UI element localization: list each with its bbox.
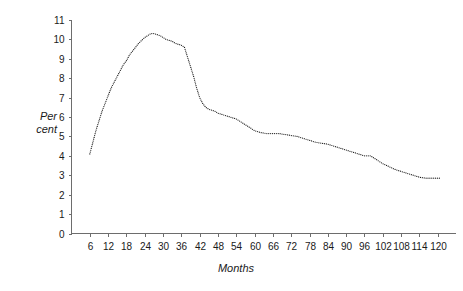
series-dot: [391, 167, 392, 168]
series-dot: [318, 142, 319, 143]
series-dot: [107, 95, 108, 96]
series-dot: [326, 143, 327, 144]
x-tick-label: 102: [375, 241, 392, 252]
series-dot: [97, 126, 98, 127]
series-dot: [170, 40, 171, 41]
series-dot: [378, 160, 379, 161]
series-dot: [101, 113, 102, 114]
series-dot: [241, 122, 242, 123]
x-tick-label: 30: [158, 241, 170, 252]
series-dot: [190, 65, 191, 66]
series-dot: [274, 133, 275, 134]
series-dot: [362, 155, 363, 156]
series-dot: [157, 34, 158, 35]
series-dot: [223, 114, 224, 115]
series-dot: [109, 92, 110, 93]
series-dot: [280, 133, 281, 134]
series-dot: [349, 151, 350, 152]
series-dot: [122, 65, 123, 66]
series-dot: [93, 140, 94, 141]
series-dot: [227, 116, 228, 117]
series-dot: [182, 46, 183, 47]
series-dot: [237, 119, 238, 120]
series-dot: [374, 158, 375, 159]
series-dot: [93, 139, 94, 140]
series-dot: [120, 70, 121, 71]
series-dot: [105, 101, 106, 102]
series-dot: [186, 52, 187, 53]
series-dot: [393, 168, 394, 169]
series-dot: [96, 128, 97, 129]
series-dot: [353, 152, 354, 153]
x-tick-label: 12: [103, 241, 115, 252]
series-dot: [94, 137, 95, 138]
series-dot: [304, 138, 305, 139]
series-dot: [262, 132, 263, 133]
series-dot: [181, 45, 182, 46]
series-dot: [220, 113, 221, 114]
series-dot: [188, 60, 189, 61]
series-dot: [207, 108, 208, 109]
series-dot: [253, 130, 254, 131]
x-tick-label: 6: [88, 241, 94, 252]
series-dot: [132, 51, 133, 52]
series-dot: [316, 142, 317, 143]
series-dot: [357, 153, 358, 154]
series-dot: [179, 44, 180, 45]
y-tick-label: 10: [53, 34, 65, 45]
series-dot: [140, 40, 141, 41]
series-dot: [313, 141, 314, 142]
series-dot: [322, 143, 323, 144]
series-dot: [195, 83, 196, 84]
series-dot: [281, 133, 282, 134]
series-dot: [245, 125, 246, 126]
series-dot: [117, 75, 118, 76]
series-dot: [169, 40, 170, 41]
series-dot: [342, 148, 343, 149]
series-dot: [130, 54, 131, 55]
series-dot: [382, 163, 383, 164]
x-tick-label: 18: [121, 241, 133, 252]
series-dot: [324, 143, 325, 144]
series-dot: [214, 111, 215, 112]
series-dot: [211, 110, 212, 111]
series-dot: [95, 131, 96, 132]
series-dot: [109, 90, 110, 91]
y-tick-label: 2: [59, 190, 65, 201]
x-axis-tick-labels: 6121824303642485460667278849096102108114…: [88, 241, 448, 252]
series-dot: [91, 148, 92, 149]
series-dot: [218, 113, 219, 114]
series-dot: [366, 155, 367, 156]
series-dot: [151, 33, 152, 34]
series-dot: [187, 58, 188, 59]
series-dot: [123, 63, 124, 64]
series-dot: [191, 69, 192, 70]
y-tick-label: 4: [59, 151, 65, 162]
series-dot: [229, 116, 230, 117]
series-dot: [105, 102, 106, 103]
series-dot: [414, 175, 415, 176]
series-dot: [206, 107, 207, 108]
series-dot: [420, 177, 421, 178]
series-dot: [252, 129, 253, 130]
series-dot: [261, 132, 262, 133]
series-dot: [437, 178, 438, 179]
series-dot: [402, 171, 403, 172]
series-dot: [411, 174, 412, 175]
y-axis-title-line2: cent: [36, 123, 58, 135]
series-dot: [364, 155, 365, 156]
series-dot: [320, 142, 321, 143]
y-axis-title-line1: Per: [40, 110, 58, 122]
series-dot: [344, 149, 345, 150]
series-dot: [131, 52, 132, 53]
series-dot: [250, 128, 251, 129]
series-dot: [172, 41, 173, 42]
series-dot: [199, 96, 200, 97]
series-dot: [209, 109, 210, 110]
series-dot: [302, 137, 303, 138]
x-tick-label: 42: [195, 241, 207, 252]
series-dot: [381, 162, 382, 163]
series-dot: [193, 78, 194, 79]
series-dot: [337, 147, 338, 148]
series-dot: [160, 35, 161, 36]
